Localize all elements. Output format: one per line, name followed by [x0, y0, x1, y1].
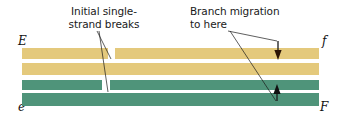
single-strand-break-bottom — [102, 80, 110, 90]
dna-duplex-bottom — [22, 80, 319, 106]
strand-end-label-top-left: E — [18, 34, 27, 48]
dna-strand-top-upper — [22, 48, 319, 59]
strand-end-label-top-right: f — [322, 34, 326, 48]
annotation-branch-migration-to-here: Branch migration to here — [190, 5, 300, 30]
annotation-initial-single-strand-breaks: Initial single- strand breaks — [54, 5, 154, 30]
single-strand-break-top — [108, 48, 115, 59]
dna-strand-bottom-upper — [22, 80, 319, 90]
leader-line-to-arrow-top — [228, 31, 277, 41]
recombination-diagram: Initial single- strand breaks Branch mig… — [0, 0, 341, 119]
dna-duplex-top — [22, 48, 319, 75]
dna-strand-top-lower — [22, 63, 319, 75]
dna-strand-bottom-lower — [22, 93, 319, 106]
strand-end-label-bottom-right: F — [320, 100, 328, 114]
